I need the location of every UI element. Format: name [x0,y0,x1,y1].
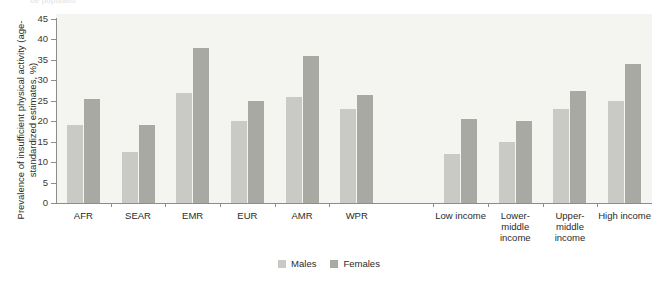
x-label-low-income: Low income [433,210,488,221]
x-label-emr: EMR [165,210,220,221]
bar-females-emr [193,48,209,203]
legend-swatch-males [278,260,286,268]
legend-label-males: Males [291,258,316,269]
x-axis-line [56,203,652,204]
bar-males-low-income [444,154,460,203]
bar-females-amr [303,56,319,203]
x-tick-2 [165,203,166,207]
legend-item-males[interactable]: Males [278,258,316,269]
x-tick-6 [433,203,434,207]
bar-females-sear [139,125,155,203]
bar-males-sear [122,152,138,203]
legend-label-females: Females [343,258,379,269]
bar-females-upper--middle-income [570,91,586,203]
chart-figure: be populatio 051015202530354045 Prevalen… [0,0,658,286]
bars-layer [56,14,652,203]
x-label-wpr: WPR [329,210,384,221]
bar-males-upper--middle-income [553,109,569,203]
bar-males-emr [176,93,192,203]
x-label-eur: EUR [220,210,275,221]
legend-swatch-females [330,260,338,268]
chart-legend: MalesFemales [0,258,658,269]
x-label-lower--middle-income: Lower- middle income [488,210,543,243]
x-tick-1 [111,203,112,207]
y-tick-0 [51,203,57,204]
bar-females-lower--middle-income [516,121,532,203]
x-tick-3 [220,203,221,207]
x-label-sear: SEAR [111,210,166,221]
bar-females-low-income [461,119,477,203]
x-tick-8 [543,203,544,207]
x-label-upper--middle-income: Upper- middle income [543,210,598,243]
bar-males-amr [286,97,302,203]
bar-females-afr [84,99,100,203]
bar-males-afr [67,125,83,203]
top-caption-fragment: be populatio [30,0,76,5]
x-tick-4 [275,203,276,207]
bar-males-lower--middle-income [499,142,515,203]
bar-males-high-income [608,101,624,203]
x-tick-5 [329,203,330,207]
bar-females-wpr [357,95,373,203]
x-label-afr: AFR [56,210,111,221]
x-tick-7 [488,203,489,207]
x-tick-9 [597,203,598,207]
bar-females-high-income [625,64,641,203]
bar-males-wpr [340,109,356,203]
x-label-amr: AMR [275,210,330,221]
y-axis-title: Prevalence of insufficient physical acti… [15,20,39,220]
bar-males-eur [231,121,247,203]
x-label-high-income: High income [597,210,652,221]
bar-females-eur [248,101,264,203]
legend-item-females[interactable]: Females [330,258,379,269]
